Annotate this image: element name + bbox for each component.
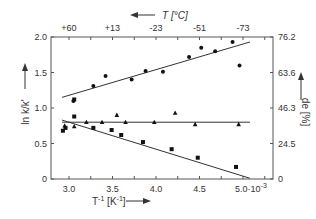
fit-line — [62, 42, 250, 97]
arrow-up-icon — [22, 63, 28, 71]
data-point-triangle — [173, 110, 178, 114]
y-left-axis-label: ln k/k' — [20, 99, 31, 124]
top-tick-label: -51 — [193, 23, 206, 33]
data-point-triangle — [115, 113, 120, 117]
y-left-tick-label: 1.5 — [34, 68, 47, 78]
top-axis-label: T [°C] — [162, 10, 188, 21]
data-point-circle — [187, 55, 191, 59]
y-left-tick-label: 0.5 — [34, 139, 47, 149]
data-point-circle — [144, 69, 148, 73]
top-tick-label: +60 — [61, 23, 76, 33]
y-right-axis-label: de [%] — [300, 98, 311, 127]
x-tick-label: 3.0 — [63, 184, 76, 194]
data-point-circle — [161, 70, 165, 74]
data-point-square — [234, 165, 238, 169]
data-point-square — [170, 147, 174, 151]
arrow-right-icon — [143, 198, 151, 204]
y-right-tick-label: 0 — [278, 174, 283, 184]
data-point-square — [72, 115, 76, 119]
data-point-square — [110, 128, 114, 132]
data-point-circle — [130, 78, 134, 82]
y-right-tick-label: 46.3 — [278, 103, 296, 113]
chart: 3.03.54.04.55.0·10-3+60+13-23-51-7300.51… — [0, 0, 316, 219]
data-point-square — [141, 140, 145, 144]
axis-ticks — [51, 37, 273, 179]
data-point-circle — [104, 74, 108, 78]
data-point-square — [72, 97, 76, 101]
arrow-up-icon — [298, 72, 304, 80]
data-points — [61, 40, 242, 169]
exponent: -3 — [261, 182, 267, 189]
y-left-tick-label: 1.0 — [34, 103, 47, 113]
x-tick-label: 4.5 — [193, 184, 206, 194]
x-tick-label: 5.0·10-3 — [235, 182, 267, 194]
data-point-square — [91, 126, 95, 130]
fit-lines — [62, 42, 250, 178]
top-tick-label: -23 — [149, 23, 162, 33]
x-tick-label: 4.0 — [150, 184, 163, 194]
y-right-tick-label: 24.5 — [278, 139, 296, 149]
data-point-triangle — [62, 123, 67, 127]
x-axis-label: T-1 [K-1] — [92, 195, 126, 207]
data-point-circle — [91, 84, 95, 88]
data-point-square — [119, 133, 123, 137]
fit-line — [62, 120, 250, 178]
arrow-left-icon — [130, 12, 138, 18]
data-point-circle — [213, 49, 217, 53]
data-point-square — [196, 156, 200, 160]
x-axis-title: T-1 [K-1] — [92, 195, 151, 207]
x-tick-label: 3.5 — [106, 184, 119, 194]
y-right-tick-label: 76.2 — [278, 32, 296, 42]
y-left-title: ln k/k' — [20, 63, 31, 125]
plot-frame — [51, 37, 273, 179]
y-right-tick-label: 63.6 — [278, 68, 296, 78]
top-tick-label: -73 — [236, 23, 249, 33]
data-point-circle — [199, 46, 203, 50]
y-left-tick-label: 0 — [42, 174, 47, 184]
top-tick-label: +13 — [105, 23, 120, 33]
y-left-tick-label: 2.0 — [34, 32, 47, 42]
y-right-title: de [%] — [298, 72, 311, 126]
top-axis-title: T [°C] — [130, 10, 188, 21]
axis-labels: 3.03.54.04.55.0·10-3+60+13-23-51-7300.51… — [34, 23, 295, 194]
data-point-circle — [231, 40, 235, 44]
data-point-circle — [238, 63, 242, 67]
